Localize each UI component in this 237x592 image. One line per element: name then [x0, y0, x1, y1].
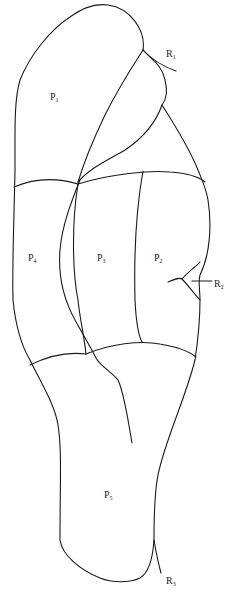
region-diagram [0, 0, 237, 592]
p1-diagonal [78, 50, 143, 182]
upper-band-left [14, 180, 78, 187]
label-p4-sub: 4 [34, 258, 37, 264]
label-r1-base: R [166, 48, 173, 59]
label-r3: R3 [166, 576, 176, 586]
label-p4: P4 [28, 253, 37, 263]
label-p3: P3 [97, 253, 106, 263]
label-r2-sub: 2 [221, 284, 224, 290]
label-r3-base: R [166, 575, 173, 586]
lower-band-right [86, 342, 196, 357]
divider-p4-p3 [60, 180, 132, 443]
label-p2-sub: 2 [160, 258, 163, 264]
label-p5-sub: 5 [110, 495, 113, 501]
label-r2-base: R [214, 278, 221, 289]
lower-band-left [30, 353, 86, 365]
r3-pointer [154, 540, 161, 573]
label-p1: P1 [50, 92, 59, 102]
label-p5: P5 [104, 490, 113, 500]
label-p1-sub: 1 [56, 97, 59, 103]
label-p3-sub: 3 [103, 258, 106, 264]
label-r2: R2 [214, 279, 224, 289]
r2-notch-upper [182, 262, 200, 279]
label-r3-sub: 3 [173, 581, 176, 587]
divider-p3-p2 [135, 171, 143, 342]
label-p2: P2 [154, 253, 163, 263]
upper-lobe-edge [78, 50, 166, 182]
label-r1: R1 [166, 49, 176, 59]
label-r1-sub: 1 [173, 54, 176, 60]
